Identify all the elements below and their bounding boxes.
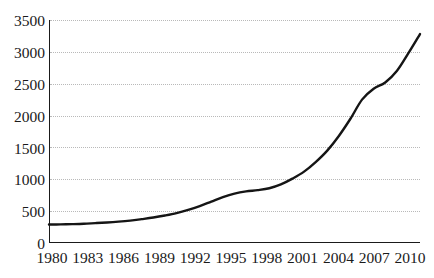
y-tick-label-1000: 1000 <box>0 172 45 188</box>
y-tick-label-3500: 3500 <box>0 13 45 29</box>
y-tick-label-2500: 2500 <box>0 77 45 93</box>
y-tick-label-3000: 3000 <box>0 45 45 61</box>
gridline-1500 <box>50 147 420 148</box>
gridline-3500 <box>50 20 420 21</box>
plot-area <box>49 20 420 243</box>
gridline-2000 <box>50 116 420 117</box>
gridline-3000 <box>50 52 420 53</box>
line-chart: 3500 3000 2500 2000 1500 1000 500 0 1980… <box>0 0 434 278</box>
x-tick-label-2010: 2010 <box>387 250 433 266</box>
gridline-2500 <box>50 84 420 85</box>
y-tick-label-1500: 1500 <box>0 141 45 157</box>
gridline-500 <box>50 211 420 212</box>
y-tick-label-2000: 2000 <box>0 109 45 125</box>
gridline-1000 <box>50 179 420 180</box>
y-tick-label-500: 500 <box>0 204 45 220</box>
